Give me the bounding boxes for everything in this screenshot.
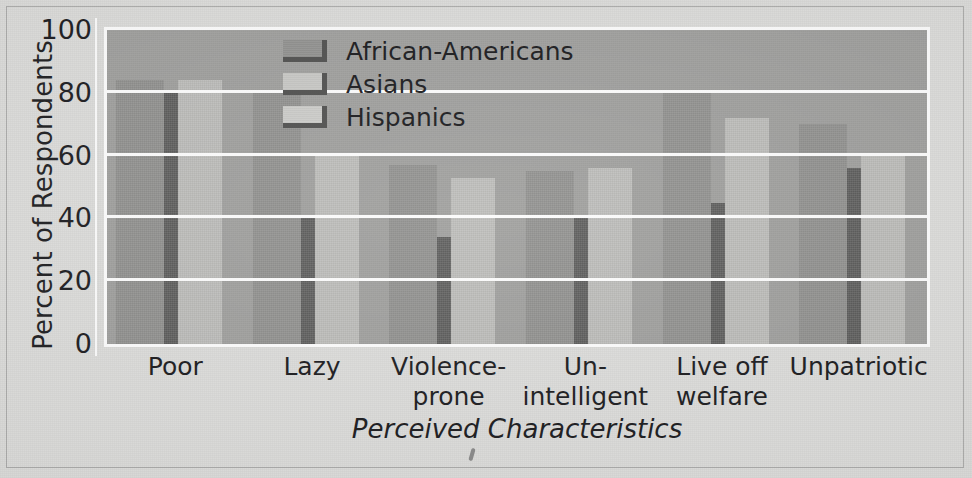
bar-violence-prone-african-americans[interactable] bbox=[389, 165, 437, 344]
bar-lazy-asians[interactable] bbox=[301, 218, 315, 344]
bar-group-live-off-welfare bbox=[654, 30, 791, 344]
bar-series-container bbox=[107, 30, 927, 344]
bar-un-intelligent-hispanics[interactable] bbox=[588, 168, 632, 344]
y-tick-40: 40 bbox=[30, 204, 92, 231]
legend-swatch-african-americans bbox=[283, 40, 327, 62]
x-axis-tick-labels: PoorLazyViolence-proneUn-intelligentLive… bbox=[107, 352, 927, 414]
figure-page: Percent of Respondents 100806040200 Afri… bbox=[0, 0, 972, 478]
gridline-80 bbox=[107, 90, 927, 93]
bar-unpatriotic-asians[interactable] bbox=[847, 168, 861, 344]
legend-label-african-americans: African-Americans bbox=[346, 36, 574, 67]
y-axis-tick-labels: 100806040200 bbox=[20, 0, 92, 478]
bar-group-un-intelligent bbox=[517, 30, 654, 344]
bar-poor-asians[interactable] bbox=[164, 93, 178, 344]
bar-group-poor bbox=[107, 30, 244, 344]
gridline-20 bbox=[107, 278, 927, 281]
bar-live-off-welfare-african-americans[interactable] bbox=[663, 93, 711, 344]
legend-label-asians: Asians bbox=[346, 69, 427, 100]
bar-lazy-african-americans[interactable] bbox=[253, 93, 301, 344]
legend-swatch-asians bbox=[283, 73, 327, 95]
y-tick-80: 80 bbox=[30, 79, 92, 106]
gridline-60 bbox=[107, 153, 927, 156]
bar-unpatriotic-african-americans[interactable] bbox=[799, 124, 847, 344]
bar-un-intelligent-african-americans[interactable] bbox=[526, 171, 574, 344]
bar-poor-hispanics[interactable] bbox=[178, 80, 222, 344]
bar-live-off-welfare-asians[interactable] bbox=[711, 203, 725, 344]
bar-violence-prone-asians[interactable] bbox=[437, 237, 451, 344]
x-axis-title: Perceived Characteristics bbox=[107, 414, 927, 444]
bar-lazy-hispanics[interactable] bbox=[315, 156, 359, 344]
bar-poor-african-americans[interactable] bbox=[116, 80, 164, 344]
y-tick-20: 20 bbox=[30, 267, 92, 294]
gridline-40 bbox=[107, 215, 927, 218]
legend-label-hispanics: Hispanics bbox=[346, 102, 466, 133]
y-tick-100: 100 bbox=[30, 16, 92, 43]
x-tick-unpatriotic: Unpatriotic bbox=[776, 352, 941, 382]
legend-swatch-hispanics bbox=[283, 106, 327, 128]
y-tick-0: 0 bbox=[30, 330, 92, 357]
bar-unpatriotic-hispanics[interactable] bbox=[861, 156, 905, 344]
bar-group-unpatriotic bbox=[790, 30, 927, 344]
y-tick-60: 60 bbox=[30, 142, 92, 169]
plot-area bbox=[107, 30, 927, 344]
bar-violence-prone-hispanics[interactable] bbox=[451, 178, 495, 344]
y-axis-line bbox=[95, 18, 97, 356]
